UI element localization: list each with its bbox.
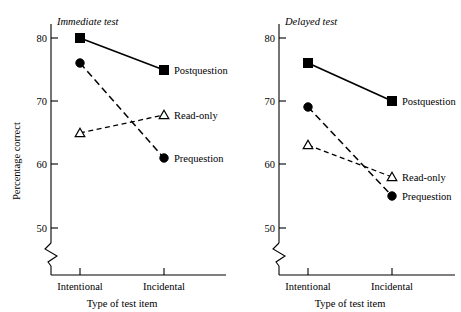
x-tick-label-incidental-right: Incidental <box>371 281 413 292</box>
panel-title-delayed: Delayed test <box>284 16 338 27</box>
series-line-prequestion-right <box>308 107 392 196</box>
series-label-prequestion-left: Prequestion <box>174 153 224 164</box>
y-tick-label-60-right: 60 <box>265 159 276 170</box>
series-readonly-right: Read-only <box>303 140 446 183</box>
datapoint-postquestion-intentional-right <box>304 59 313 68</box>
x-tick-label-intentional-right: Intentional <box>285 281 331 292</box>
y-tick-label-50-right: 50 <box>265 223 276 234</box>
x-ticks-right: Intentional Incidental <box>285 268 413 292</box>
y-tick-label-50: 50 <box>37 223 48 234</box>
x-tick-label-intentional-left: Intentional <box>57 281 103 292</box>
series-readonly-left: Read-only <box>75 110 218 137</box>
panel-delayed-test: Delayed test 80 70 60 50 <box>265 16 457 309</box>
datapoint-prequestion-intentional-right <box>304 103 312 111</box>
datapoint-prequestion-intentional-left <box>76 59 84 67</box>
series-postquestion-left: Postquestion <box>76 34 229 77</box>
y-tick-label-60: 60 <box>37 159 48 170</box>
x-tick-label-incidental-left: Incidental <box>143 281 185 292</box>
x-axis-title-right: Type of test item <box>315 298 386 309</box>
series-line-postquestion-left <box>80 38 164 70</box>
series-label-postquestion-right: Postquestion <box>402 96 456 107</box>
y-axis-label-left: Percentage correct <box>11 122 22 200</box>
datapoint-prequestion-incidental-right <box>388 192 396 200</box>
series-label-postquestion-left: Postquestion <box>174 65 228 76</box>
figure-container: Percentage correct Immediate test 80 70 … <box>0 0 461 312</box>
y-tick-label-70: 70 <box>37 96 48 107</box>
y-tick-label-70-right: 70 <box>265 96 276 107</box>
series-line-postquestion-right <box>308 63 392 101</box>
series-line-readonly-left <box>80 115 164 133</box>
panel-title-immediate: Immediate test <box>56 16 120 27</box>
x-axis-title-left: Type of test item <box>87 298 158 309</box>
series-label-readonly-right: Read-only <box>402 172 446 183</box>
datapoint-readonly-incidental-left <box>159 110 169 118</box>
y-tick-label-80: 80 <box>37 33 48 44</box>
x-ticks-left: Intentional Incidental <box>57 268 185 292</box>
y-ticks-left: 80 70 60 50 <box>37 33 59 234</box>
y-axis-break-left <box>45 243 57 266</box>
datapoint-postquestion-incidental-left <box>160 66 169 75</box>
datapoint-postquestion-incidental-right <box>388 97 397 106</box>
datapoint-postquestion-intentional-left <box>76 34 85 43</box>
series-label-prequestion-right: Prequestion <box>402 191 452 202</box>
y-tick-label-80-right: 80 <box>265 33 276 44</box>
y-ticks-right: 80 70 60 50 <box>265 33 287 234</box>
series-line-readonly-right <box>308 145 392 177</box>
panel-immediate-test: Percentage correct Immediate test 80 70 … <box>11 16 228 309</box>
datapoint-readonly-intentional-right <box>303 140 313 148</box>
series-postquestion-right: Postquestion <box>304 59 457 108</box>
series-label-readonly-left: Read-only <box>174 110 218 121</box>
series-line-prequestion-left <box>80 63 164 158</box>
y-axis-break-right <box>273 243 285 266</box>
two-panel-line-chart: Percentage correct Immediate test 80 70 … <box>0 0 461 312</box>
datapoint-prequestion-incidental-left <box>160 154 168 162</box>
